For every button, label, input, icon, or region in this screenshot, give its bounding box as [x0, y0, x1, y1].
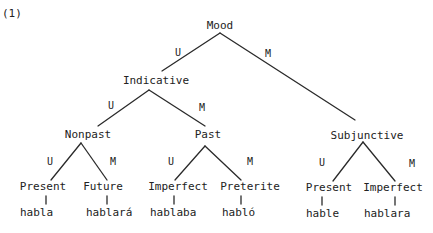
branch-label-indicative-m: M — [199, 102, 205, 113]
edge-mood-subjunctive — [220, 33, 355, 120]
branch-label-past-m: M — [247, 156, 253, 167]
form-hablara-future: hablará — [86, 206, 132, 219]
node-past: Past — [195, 128, 222, 141]
branch-label-subjunctive-m: M — [409, 158, 415, 169]
edge-subjunctive-present — [333, 142, 363, 181]
branch-label-subjunctive-u: U — [319, 157, 325, 168]
leaf-preterite: Preterite — [220, 180, 280, 193]
node-subjunctive: Subjunctive — [331, 129, 404, 142]
edge-indicative-past — [149, 90, 205, 126]
edge-past-imperfect — [175, 146, 205, 180]
edge-past-preterite — [205, 146, 241, 180]
leaf-present-subjunctive: Present — [306, 181, 352, 194]
form-habla: habla — [20, 206, 53, 219]
leaf-future: Future — [83, 180, 123, 193]
form-hablo: habló — [222, 206, 255, 219]
branch-label-past-u: U — [168, 156, 174, 167]
branch-label-nonpast-u: U — [47, 156, 53, 167]
edge-nonpast-present — [51, 143, 81, 180]
leaf-imperfect-subjunctive: Imperfect — [363, 181, 423, 194]
node-mood: Mood — [207, 19, 234, 32]
node-nonpast: Nonpast — [65, 128, 111, 141]
edge-subjunctive-imperfect — [363, 142, 395, 181]
branch-label-mood-m: M — [265, 48, 271, 59]
form-hablara-subjunctive: hablara — [364, 207, 410, 220]
leaf-imperfect-indicative: Imperfect — [148, 180, 208, 193]
edge-indicative-nonpast — [98, 90, 149, 126]
branch-label-nonpast-m: M — [110, 156, 116, 167]
leaf-present-indicative: Present — [20, 180, 66, 193]
branch-label-mood-u: U — [175, 47, 181, 58]
node-indicative: Indicative — [123, 74, 189, 87]
mood-tree-diagram: (1) Mood U M Indicative U M Subjunctive … — [0, 0, 433, 233]
branch-label-indicative-u: U — [108, 100, 114, 111]
form-hable: hable — [306, 207, 339, 220]
form-hablaba: hablaba — [150, 206, 196, 219]
edge-nonpast-future — [81, 143, 107, 180]
edge-mood-indicative — [162, 33, 220, 71]
example-number: (1) — [2, 7, 22, 20]
